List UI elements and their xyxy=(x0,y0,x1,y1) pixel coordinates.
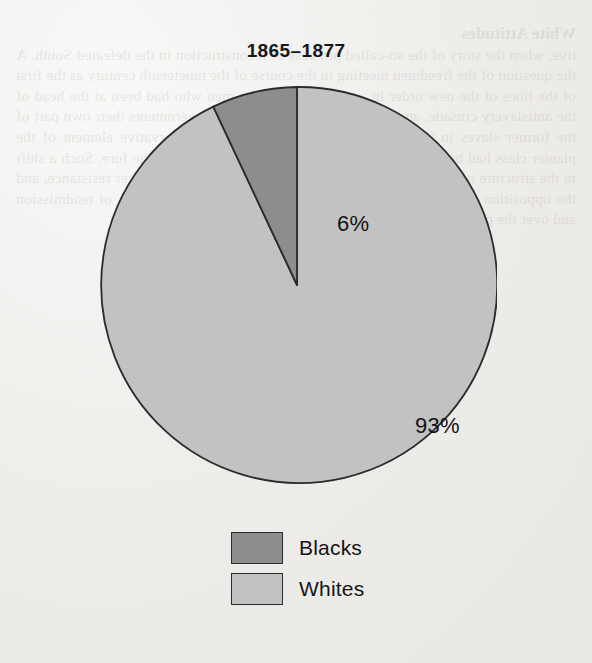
scanned-page-background: White Attitudes tive, when the story of … xyxy=(0,0,592,663)
pie-chart-graphic: 6% 93% xyxy=(97,85,497,487)
chart-title: 1865–1877 xyxy=(0,40,592,62)
legend-swatch-whites xyxy=(231,573,283,605)
slice-value-label-whites: 93% xyxy=(415,413,460,439)
pie-chart-figure: 1865–1877 6% 93% Blacks Whites xyxy=(0,0,592,663)
legend-item-whites[interactable]: Whites xyxy=(231,568,471,609)
chart-legend: Blacks Whites xyxy=(231,527,471,609)
legend-label-blacks: Blacks xyxy=(299,536,362,560)
slice-value-label-blacks: 6% xyxy=(337,211,369,237)
legend-item-blacks[interactable]: Blacks xyxy=(231,527,471,568)
legend-label-whites: Whites xyxy=(299,577,364,601)
legend-swatch-blacks xyxy=(231,532,283,564)
